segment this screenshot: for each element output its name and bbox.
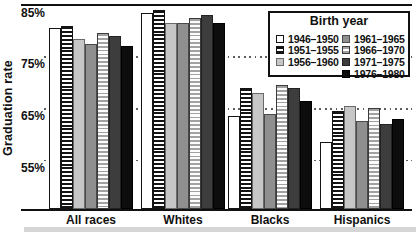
legend-title: Birth year [270, 15, 408, 28]
legend-item: 1961–1965 [342, 33, 405, 45]
bar-blacks-1961-1965 [264, 114, 276, 210]
legend-item: 1946–1950 [276, 33, 339, 45]
bar-all-races-1961-1965 [85, 44, 97, 209]
bar-whites-1971-1975 [201, 15, 213, 209]
x-axis-line [21, 209, 412, 211]
bar-all-races-1951-1955 [61, 26, 73, 209]
bar-hispanics-1976-1980 [392, 119, 404, 209]
x-category-label-blacks: Blacks [228, 213, 312, 227]
legend-item-label: 1951–1955 [288, 44, 339, 56]
bar-all-races-1971-1975 [109, 36, 121, 209]
bar-blacks-1976-1980 [300, 101, 312, 209]
legend-item: 1976–1980 [342, 68, 405, 80]
bar-whites-1976-1980 [213, 23, 225, 209]
bar-whites-1961-1965 [177, 23, 189, 209]
bar-hispanics-1951-1955 [332, 111, 344, 209]
bar-blacks-1946-1950 [228, 116, 240, 209]
legend-swatch-icon [276, 58, 284, 66]
legend-item: 1951–1955 [276, 45, 339, 57]
bar-hispanics-1956-1960 [344, 106, 356, 209]
bar-whites-1956-1960 [165, 23, 177, 209]
legend-item: 1971–1975 [342, 56, 405, 68]
bar-hispanics-1966-1970 [368, 108, 380, 209]
legend-swatch-icon [276, 46, 284, 54]
bar-whites-1946-1950 [141, 13, 153, 209]
legend-item: 1966–1970 [342, 45, 405, 57]
bar-all-races-1946-1950 [49, 28, 61, 209]
legend-item-label: 1946–1950 [288, 33, 339, 45]
legend-column-left: 1946–19501951–19551956–1960 [276, 33, 339, 68]
x-category-label-hispanics: Hispanics [320, 213, 404, 227]
y-axis-title: Graduation rate [1, 8, 15, 208]
legend-item-label: 1956–1960 [288, 56, 339, 68]
bar-blacks-1966-1970 [276, 85, 288, 209]
bar-blacks-1951-1955 [240, 88, 252, 209]
legend-swatch-icon [342, 70, 350, 78]
x-category-label-all-races: All races [49, 213, 133, 227]
y-tick-label-75: 75% [5, 58, 45, 70]
legend-column-right: 1961–19651966–19701971–19751976–1980 [342, 33, 405, 79]
x-category-label-whites: Whites [141, 213, 225, 227]
bar-all-races-1956-1960 [73, 39, 85, 209]
legend-item-label: 1966–1970 [354, 44, 405, 56]
bar-blacks-1971-1975 [288, 88, 300, 209]
bar-hispanics-1961-1965 [356, 121, 368, 209]
legend-item-label: 1961–1965 [354, 33, 405, 45]
bar-whites-1966-1970 [189, 18, 201, 209]
bar-hispanics-1971-1975 [380, 124, 392, 209]
plot-top-frame-line [21, 4, 412, 6]
legend-item-label: 1976–1980 [354, 68, 405, 80]
legend-swatch-icon [342, 35, 350, 43]
bar-all-races-1976-1980 [121, 46, 133, 209]
bar-all-races-1966-1970 [97, 33, 109, 209]
legend-swatch-icon [276, 35, 284, 43]
legend-item-label: 1971–1975 [354, 56, 405, 68]
legend-swatch-icon [342, 46, 350, 54]
legend-item: 1956–1960 [276, 56, 339, 68]
bar-whites-1951-1955 [153, 10, 165, 209]
bar-hispanics-1946-1950 [320, 142, 332, 209]
y-tick-label-85: 85% [5, 7, 45, 19]
bottom-gray-band [24, 227, 416, 232]
bar-blacks-1956-1960 [252, 93, 264, 209]
legend-swatch-icon [342, 58, 350, 66]
y-tick-label-55: 55% [5, 162, 45, 174]
graduation-rate-chart: Graduation rate 85%75%65%55%All racesWhi… [0, 0, 416, 232]
legend-box: Birth year 1946–19501951–19551956–1960 1… [268, 11, 410, 77]
y-tick-label-65: 65% [5, 110, 45, 122]
